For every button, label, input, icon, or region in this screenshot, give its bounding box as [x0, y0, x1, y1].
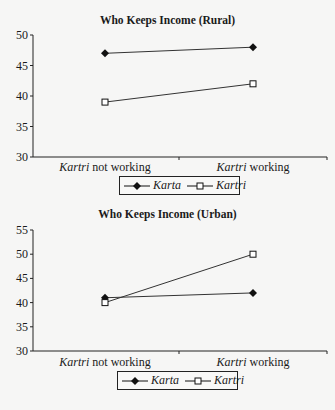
legend-karta: Karta [122, 373, 179, 388]
x-label-not-working: Kartri not working [59, 160, 150, 175]
filled-diamond-icon [122, 376, 148, 386]
y-tick-label: 35 [4, 321, 28, 333]
x-label-not-working: Kartri not working [59, 355, 150, 370]
open-square-icon [185, 376, 211, 386]
y-tick-label: 45 [4, 60, 28, 72]
urban-chart: Who Keeps Income (Urban) 555045403530 Ka… [0, 200, 335, 410]
filled-diamond-icon [124, 181, 150, 191]
legend-karta: Karta [124, 178, 181, 193]
y-tick-label: 35 [4, 121, 28, 133]
series-line-kartri [105, 84, 253, 102]
data-point-karta [101, 49, 109, 57]
data-point-karta [249, 43, 257, 51]
y-tick-label: 40 [4, 90, 28, 102]
data-point-kartri [250, 251, 256, 257]
data-point-karta [249, 289, 257, 297]
data-point-kartri [102, 300, 108, 306]
data-point-kartri [102, 99, 108, 105]
data-point-kartri [250, 81, 256, 87]
legend-kartri: Kartri [185, 373, 244, 388]
y-tick-label: 50 [4, 29, 28, 41]
open-square-icon [187, 181, 213, 191]
y-tick-label: 45 [4, 272, 28, 284]
legend: Karta Kartri [119, 176, 240, 195]
rural-chart: Who Keeps Income (Rural) 5045403530 Kart… [0, 0, 335, 200]
y-tick-label: 50 [4, 248, 28, 260]
legend-kartri: Kartri [187, 178, 246, 193]
x-label-working: Kartri working [216, 160, 289, 175]
x-label-working: Kartri working [216, 355, 289, 370]
y-tick-label: 30 [4, 345, 28, 357]
y-tick-label: 30 [4, 151, 28, 163]
y-tick-label: 40 [4, 297, 28, 309]
legend: Karta Kartri [117, 371, 238, 390]
series-line-karta [105, 47, 253, 53]
y-tick-label: 55 [4, 224, 28, 236]
